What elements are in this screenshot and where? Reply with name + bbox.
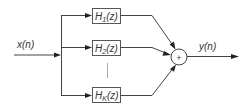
output-label: y(n): [198, 41, 216, 52]
block-arg: (z): [107, 90, 119, 101]
block-diagram: x(n) H1(z) H2(z) HK(z): [0, 0, 248, 109]
path-k-to-sum: [121, 65, 177, 96]
svg-text:HK(z): HK(z): [95, 90, 119, 102]
branch-1: [62, 13, 93, 18]
input-signal: x(n): [14, 39, 61, 58]
branch-2: [62, 45, 93, 50]
block-arg: (z): [106, 43, 118, 54]
output-arrow-icon: [231, 54, 239, 59]
path-2-to-sum: [121, 48, 172, 56]
arrow-icon: [85, 13, 92, 18]
block-arg: (z): [106, 11, 118, 22]
branch-k: [62, 93, 93, 98]
filter-block-h1: H1(z): [93, 9, 121, 24]
summing-junction: +: [171, 49, 187, 65]
arrow-icon: [85, 93, 92, 98]
output-signal: y(n): [187, 41, 239, 59]
arrow-icon: [85, 45, 92, 50]
plus-icon: +: [176, 53, 181, 63]
arrow-icon: [163, 51, 172, 56]
svg-text:H1(z): H1(z): [95, 11, 118, 23]
input-arrow-icon: [54, 53, 61, 58]
input-label: x(n): [16, 39, 34, 50]
svg-text:H2(z): H2(z): [95, 43, 118, 55]
filter-block-hk: HK(z): [93, 88, 121, 103]
path-1-to-sum: [121, 16, 176, 50]
filter-block-h2: H2(z): [93, 41, 121, 56]
